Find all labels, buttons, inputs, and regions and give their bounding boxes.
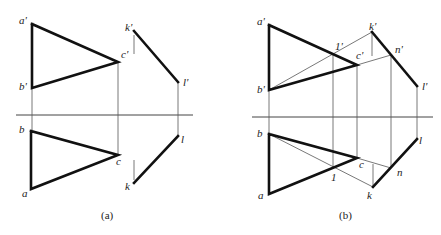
point-label: b' (19, 80, 28, 92)
point-label: n (397, 166, 403, 178)
point-label: b (19, 123, 25, 135)
point-label: 1' (335, 40, 344, 52)
panel-caption: (b) (339, 209, 352, 222)
construction-line (269, 32, 372, 90)
panel-a: a'b'c'k'l'bcakl(a) (16, 14, 193, 222)
point-label: c (116, 155, 121, 167)
point-label: a' (19, 14, 28, 26)
point-label: l (419, 134, 422, 146)
point-label: c (359, 158, 364, 170)
point-label: b' (257, 83, 266, 95)
point-label: 1 (331, 171, 337, 183)
point-label: c' (356, 49, 364, 61)
point-label: a (22, 187, 28, 199)
point-label: n' (395, 43, 404, 55)
object-edge (32, 24, 118, 88)
point-label: l' (183, 76, 189, 88)
point-label: a (258, 189, 264, 201)
point-label: k' (369, 20, 377, 32)
point-label: k' (125, 21, 133, 33)
object-edge (269, 134, 357, 194)
point-label: c' (121, 48, 129, 60)
panel-caption: (a) (101, 209, 114, 222)
point-label: l (181, 133, 184, 145)
object-edge (134, 136, 178, 183)
point-label: a' (257, 15, 266, 27)
object-edge (269, 25, 357, 90)
object-edge (31, 131, 118, 189)
point-label: b (257, 127, 263, 139)
projection-diagram: a'b'c'k'l'bcakl(a) a'b'c'k'n'1'l'bcakn1l… (0, 0, 441, 235)
panel-b: a'b'c'k'n'1'l'bcakn1l(b) (252, 15, 433, 222)
point-label: k (125, 180, 131, 192)
object-edge (134, 31, 178, 82)
point-label: l' (422, 80, 428, 92)
object-edge (373, 139, 417, 187)
point-label: k (367, 189, 373, 201)
